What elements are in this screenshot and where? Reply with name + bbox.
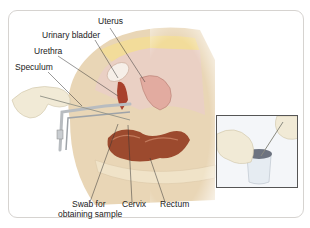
label-cervix: Cervix: [122, 199, 146, 209]
label-speculum: Speculum: [15, 62, 53, 72]
sample-container-illustration: [217, 116, 298, 188]
label-rectum: Rectum: [160, 199, 189, 209]
label-urethra: Urethra: [34, 46, 62, 56]
inset-sample-container: [216, 115, 298, 188]
label-swab-line2: obtaining sample: [58, 209, 122, 219]
label-urinary-bladder: Urinary bladder: [42, 30, 100, 40]
label-swab-line1: Swab for: [72, 199, 106, 209]
label-uterus: Uterus: [98, 16, 123, 26]
